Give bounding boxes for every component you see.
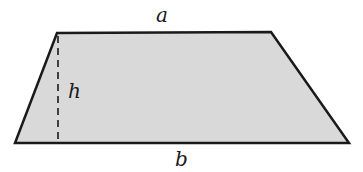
label-h: h	[68, 79, 81, 103]
label-b: b	[175, 147, 188, 171]
label-a: a	[156, 3, 168, 27]
trapezoid-diagram: a h b	[0, 0, 363, 172]
trapezoid-shape	[15, 32, 349, 143]
